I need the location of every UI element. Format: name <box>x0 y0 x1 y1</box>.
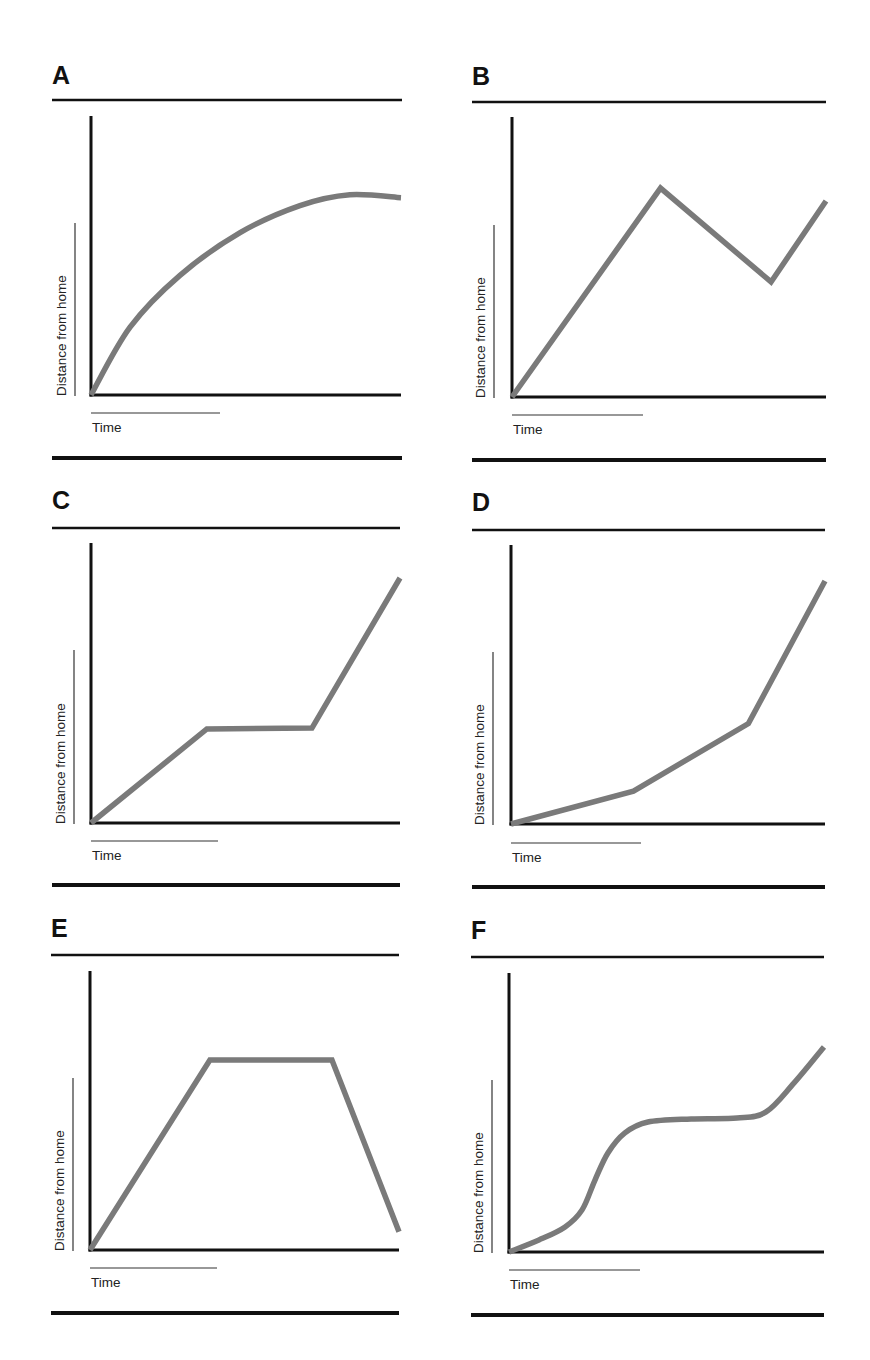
series-line-c <box>91 578 400 823</box>
panel-c <box>52 528 400 885</box>
x-axis-label: Time <box>91 1275 121 1290</box>
panel-f <box>471 957 824 1315</box>
y-axis-label: Distance from home <box>472 704 487 825</box>
series-line-f <box>509 1047 824 1252</box>
x-axis-label: Time <box>92 420 122 435</box>
panel-d-letter: D <box>472 490 490 515</box>
panel-a-letter: A <box>52 63 70 88</box>
panel-b <box>472 102 826 460</box>
series-line-b <box>512 188 826 397</box>
x-axis-label: Time <box>92 848 122 863</box>
series-line-e <box>90 1060 399 1250</box>
y-axis-label: Distance from home <box>52 1130 67 1251</box>
panel-c-letter: C <box>52 488 70 513</box>
panel-d <box>472 530 825 887</box>
panel-b-letter: B <box>472 64 490 89</box>
y-axis-label: Distance from home <box>53 703 68 824</box>
figure-canvas <box>0 0 870 1360</box>
panel-e-letter: E <box>51 916 68 941</box>
panel-e <box>51 955 399 1313</box>
y-axis-label: Distance from home <box>473 277 488 398</box>
x-axis-label: Time <box>513 422 543 437</box>
series-line-d <box>511 581 825 824</box>
y-axis-label: Distance from home <box>471 1132 486 1253</box>
panel-f-letter: F <box>471 918 486 943</box>
x-axis-label: Time <box>512 850 542 865</box>
x-axis-label: Time <box>510 1277 540 1292</box>
panel-a <box>52 100 402 458</box>
y-axis-label: Distance from home <box>54 275 69 396</box>
series-line-a <box>91 194 401 395</box>
